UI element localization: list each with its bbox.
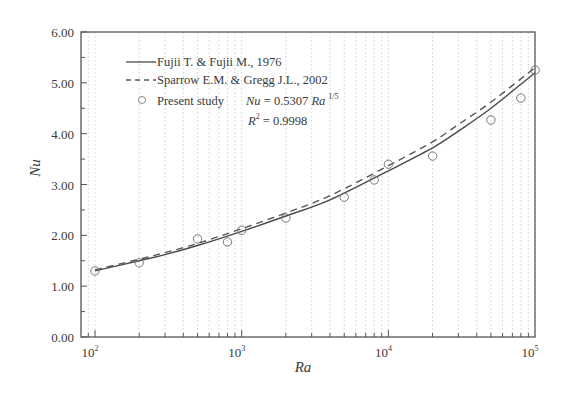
- x-tick-label: 105: [522, 344, 539, 360]
- x-tick-label: 103: [228, 344, 245, 360]
- y-tick-label: 3.00: [51, 178, 74, 193]
- r-squared: R2 = 0.9998: [247, 112, 307, 128]
- x-tick-label: 104: [375, 344, 392, 360]
- data-point-marker: [135, 259, 143, 267]
- data-point-marker: [193, 235, 201, 243]
- y-tick-label: 2.00: [51, 228, 74, 243]
- x-tick-labels: 102103104105: [82, 344, 539, 360]
- y-tick-label: 4.00: [51, 127, 74, 142]
- legend: Fujii T. & Fujii M., 1976 Sparrow E.M. &…: [126, 55, 339, 128]
- legend-fujii: Fujii T. & Fujii M., 1976: [157, 55, 282, 69]
- x-axis-title: Ra: [294, 359, 312, 375]
- equation: Nu = 0.5307 Ra1/5: [245, 92, 339, 108]
- y-tick-labels: 0.001.002.003.004.005.006.00: [51, 25, 74, 345]
- x-tick-label: 102: [82, 344, 99, 360]
- y-tick-label: 1.00: [51, 279, 74, 294]
- legend-sparrow: Sparrow E.M. & Gregg J.L., 2002: [157, 73, 328, 87]
- y-tick-label: 0.00: [51, 330, 74, 345]
- y-tick-label: 5.00: [51, 76, 74, 91]
- legend-present: Present study: [157, 94, 225, 108]
- y-axis-title: Nu: [27, 159, 43, 178]
- chart: 0.001.002.003.004.005.006.00 10210310410…: [0, 0, 565, 397]
- y-tick-label: 6.00: [51, 25, 74, 40]
